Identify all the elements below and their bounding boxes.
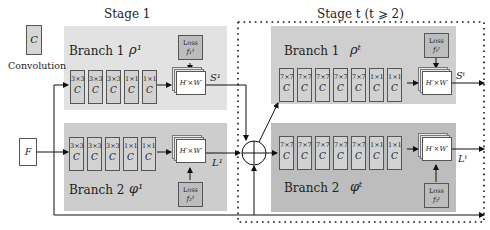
staget-branch1-loss: Lossf₁ᵗ [424, 33, 449, 58]
staget-branch1-label: Branch 1 [284, 44, 339, 58]
stage1-branch2-label: Branch 2 [69, 183, 124, 197]
conv-block: 1×1C [123, 137, 138, 171]
staget-branch2-loss: Lossf₂ᵗ [424, 183, 449, 208]
conv-block: 3×3C [88, 70, 103, 104]
conv-block: 3×3C [106, 70, 121, 104]
staget-branch2-output-label: Lᵗ [458, 153, 467, 164]
stage1-branch2-output-label: L¹ [212, 157, 223, 168]
conv-block: 1×1C [387, 68, 402, 102]
conv-block: 7×7C [297, 68, 312, 102]
input-f-box: F [19, 138, 37, 166]
conv-block: 1×1C [142, 70, 157, 104]
staget-branch2-output: H′×W′ [418, 133, 452, 161]
conv-legend-label: Convolution [8, 60, 66, 71]
conv-block: 1×1C [124, 70, 139, 104]
stage1-branch2-output: H′×W′ [172, 135, 206, 163]
stage1-branch2-symbol: φ¹ [129, 181, 143, 196]
staget-branch2-label: Branch 2 [284, 181, 339, 195]
conv-block: 7×7C [333, 68, 348, 102]
conv-block: 7×7C [333, 136, 348, 170]
conv-legend-box: C [26, 25, 42, 55]
conv-block: 1×1C [141, 137, 156, 171]
conv-block: 3×3C [87, 137, 102, 171]
conv-legend-symbol: C [30, 34, 38, 45]
conv-block: 3×3C [69, 137, 84, 171]
stage1-branch1-label: Branch 1 [69, 44, 124, 58]
staget-branch2-symbol: φᵗ [350, 179, 362, 194]
stage1-branch1-output-label: S¹ [210, 72, 221, 83]
stage1-branch1-symbol: ρ¹ [129, 42, 142, 57]
stage1-title: Stage 1 [104, 7, 150, 21]
conv-block: 1×1C [369, 136, 384, 170]
stage1-branch1-output: H′×W′ [172, 67, 206, 95]
staget-branch1-symbol: ρᵗ [350, 42, 361, 57]
stage1-branch1-loss: Lossf₁¹ [178, 35, 203, 60]
staget-branch1-output-label: Sᵗ [456, 70, 465, 81]
conv-block: 7×7C [297, 136, 312, 170]
conv-block: 7×7C [315, 68, 330, 102]
conv-block: 3×3C [70, 70, 85, 104]
conv-block: 7×7C [351, 68, 366, 102]
conv-block: 1×1C [387, 136, 402, 170]
staget-branch1-output: H′×W′ [418, 67, 452, 95]
staget-title: Stage t (t ⩾ 2) [317, 7, 404, 21]
conv-block: 7×7C [279, 68, 294, 102]
conv-block: 1×1C [369, 68, 384, 102]
conv-block: 7×7C [279, 136, 294, 170]
conv-block: 7×7C [351, 136, 366, 170]
conv-block: 7×7C [315, 136, 330, 170]
stage1-branch2-loss: Lossf₂¹ [178, 182, 203, 207]
conv-block: 3×3C [105, 137, 120, 171]
